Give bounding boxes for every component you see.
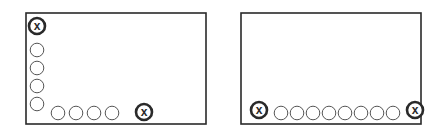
empty-circle-icon xyxy=(105,106,119,120)
empty-circle-icon xyxy=(30,97,44,111)
empty-circle-icon xyxy=(322,106,336,120)
left-panel: xx xyxy=(26,13,206,124)
panel-border xyxy=(241,13,421,124)
empty-circle-icon xyxy=(30,79,44,93)
empty-circle-icon xyxy=(354,106,368,120)
empty-circle-icon xyxy=(386,106,400,120)
x-circle-icon: x xyxy=(251,102,267,118)
empty-circle-icon xyxy=(274,106,288,120)
empty-circle-icon xyxy=(51,106,65,120)
empty-circle-icon xyxy=(30,43,44,57)
right-panel: xx xyxy=(241,13,423,124)
x-label: x xyxy=(256,103,263,117)
x-label: x xyxy=(412,103,419,117)
x-circle-icon: x xyxy=(136,104,152,120)
x-label: x xyxy=(34,19,41,33)
diagram-canvas: xxxx xyxy=(0,0,446,132)
x-circle-icon: x xyxy=(407,102,423,118)
x-label: x xyxy=(141,105,148,119)
empty-circle-icon xyxy=(306,106,320,120)
empty-circle-icon xyxy=(370,106,384,120)
empty-circle-icon xyxy=(30,61,44,75)
empty-circle-icon xyxy=(290,106,304,120)
x-circle-icon: x xyxy=(29,18,45,34)
empty-circle-icon xyxy=(69,106,83,120)
empty-circle-icon xyxy=(87,106,101,120)
empty-circle-icon xyxy=(338,106,352,120)
